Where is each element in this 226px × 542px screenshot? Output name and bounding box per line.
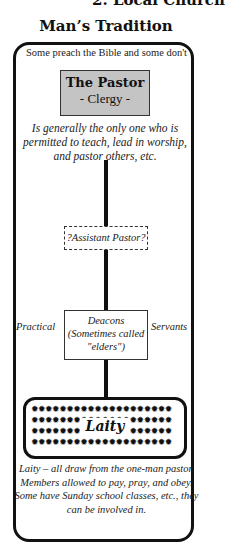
pastor-description: Is generally the only one who is permitt… bbox=[16, 121, 194, 163]
frame-subtitle: Some preach the Bible and some don't bbox=[13, 47, 200, 58]
laity-description: Laity – all draw from the one-man pastor… bbox=[13, 462, 200, 516]
deacons-box: Deacons (Sometimes called "elders") bbox=[64, 310, 148, 360]
connector-line-deacons-laity bbox=[104, 360, 108, 397]
connector-line-assistant-deacons bbox=[104, 250, 108, 310]
deacons-line-2: (Sometimes called bbox=[65, 327, 147, 340]
servants-label: Servants bbox=[151, 321, 187, 332]
pastor-title: The Pastor bbox=[61, 75, 149, 90]
deacons-line-1: Deacons bbox=[65, 314, 147, 327]
laity-label: Laity bbox=[80, 418, 131, 434]
laity-label-wrap: Laity bbox=[26, 418, 184, 434]
diagram-title: Man’s Tradition bbox=[0, 17, 212, 35]
section-heading: 2. Local Church bbox=[92, 0, 225, 9]
pastor-box: The Pastor - Clergy - bbox=[60, 70, 150, 116]
assistant-pastor-box: ?Assistant Pastor? bbox=[64, 226, 148, 250]
laity-dots-row: ✹✹✹✹✹✹✹✹✹✹✹✹✹✹✹✹✹✹✹✹ bbox=[31, 405, 179, 414]
deacons-line-3: "elders") bbox=[65, 340, 147, 353]
laity-box: ✹✹✹✹✹✹✹✹✹✹✹✹✹✹✹✹✹✹✹✹ ✹✹✹✹✹✹✹✹✹✹✹✹✹✹✹✹✹✹✹… bbox=[23, 397, 187, 459]
connector-line-pastor-assistant bbox=[104, 160, 108, 226]
laity-dots-row: ✹✹✹✹✹✹✹✹✹✹✹✹✹✹✹✹✹✹✹✹ bbox=[31, 438, 179, 447]
practical-label: Practical bbox=[16, 321, 55, 332]
pastor-subtitle: - Clergy - bbox=[61, 91, 149, 107]
